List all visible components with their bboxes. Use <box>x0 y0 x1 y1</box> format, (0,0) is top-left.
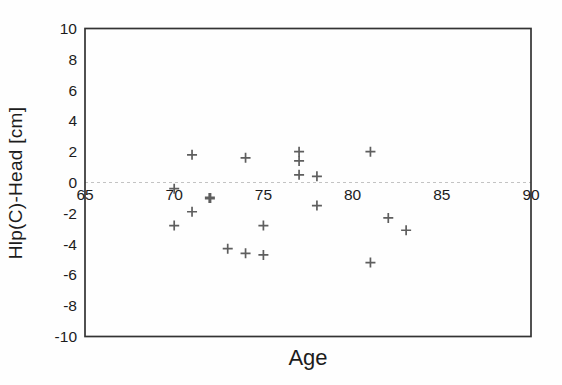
y-tick-label: 2 <box>68 143 77 160</box>
y-tick-label: 8 <box>68 51 77 68</box>
y-tick-label: -8 <box>63 297 77 314</box>
data-point-marker <box>312 171 322 181</box>
x-tick-label: 85 <box>433 186 450 203</box>
data-point-marker <box>312 201 322 211</box>
x-tick-label: 65 <box>76 186 93 203</box>
data-point-marker <box>365 258 375 268</box>
y-tick-label: -6 <box>63 266 77 283</box>
x-axis-title: Age <box>288 345 327 371</box>
data-point-marker <box>294 156 304 166</box>
data-point-marker <box>294 170 304 180</box>
data-point-marker <box>383 213 393 223</box>
y-tick-label: -2 <box>63 205 77 222</box>
data-point-marker <box>258 221 268 231</box>
data-point-marker <box>241 153 251 163</box>
x-tick-label: 80 <box>344 186 362 203</box>
data-point-marker <box>294 147 304 157</box>
y-tick-label: 10 <box>60 20 78 37</box>
data-point-marker <box>223 244 233 254</box>
y-tick-label: 6 <box>68 82 77 99</box>
data-point-marker <box>241 248 251 258</box>
y-tick-label: 4 <box>68 112 77 129</box>
x-tick-label: 90 <box>522 186 540 203</box>
data-point-marker <box>258 250 268 260</box>
data-point-marker <box>365 147 375 157</box>
y-tick-label: -10 <box>55 328 78 345</box>
scatter-plot-figure: Hlp(C)-Head [cm] 1086420-2-4-6-8-1065707… <box>0 0 562 385</box>
data-point-marker <box>169 221 179 231</box>
data-point-marker <box>187 150 197 160</box>
y-tick-label: -4 <box>63 236 77 253</box>
data-point-marker <box>187 207 197 217</box>
data-point-marker <box>205 193 215 203</box>
data-point-marker <box>401 225 411 235</box>
y-axis-title: Hlp(C)-Head [cm] <box>5 107 27 260</box>
plot-area: 1086420-2-4-6-8-10657075808590 <box>0 0 562 385</box>
x-tick-label: 75 <box>255 186 272 203</box>
